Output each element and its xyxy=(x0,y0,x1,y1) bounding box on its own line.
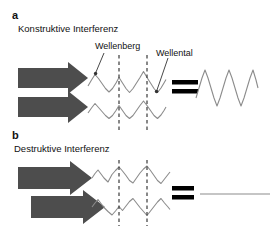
wave-a-beam1 xyxy=(88,72,166,93)
wave-b-beam2 xyxy=(92,199,170,216)
panel-a-letter: a xyxy=(12,10,18,21)
callout-label-wellental: Wellental xyxy=(156,48,193,58)
equals-sign-b xyxy=(172,186,194,200)
beam-label-a2: Lichtstrahl 2 xyxy=(24,102,67,110)
callout-pointer-wellenberg xyxy=(94,53,104,75)
panel-a-title: Konstruktive Interferenz xyxy=(18,24,118,34)
result-wave-constructive xyxy=(196,70,258,106)
beam-label-b2: Lichtstrahl 2 xyxy=(37,201,80,209)
panel-b-letter: b xyxy=(12,130,19,141)
beam-label-a1: Lichtstrahl 1 xyxy=(24,73,67,81)
wave-b-beam1 xyxy=(92,166,170,184)
interference-figure: a Konstruktive Interferenz Wellenberg We… xyxy=(0,0,280,242)
beam-label-b1: Lichtstrahl 1 xyxy=(25,172,68,180)
callout-pointer-wellental xyxy=(155,58,168,93)
panel-b-title: Destruktive Interferenz xyxy=(14,144,110,154)
wave-a-beam2 xyxy=(88,101,166,119)
equals-sign-a xyxy=(172,80,198,94)
callout-label-wellenberg: Wellenberg xyxy=(95,41,140,51)
